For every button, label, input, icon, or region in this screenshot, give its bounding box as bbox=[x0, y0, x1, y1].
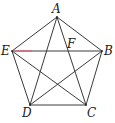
diagonal-ad bbox=[30, 17, 57, 105]
side-bc bbox=[86, 51, 102, 105]
pentagon-diagram: A B C D E F bbox=[0, 0, 115, 123]
vertex-b-dot bbox=[101, 50, 103, 52]
side-de bbox=[12, 51, 30, 105]
label-c: C bbox=[87, 106, 96, 120]
side-ea bbox=[12, 17, 57, 51]
label-d: D bbox=[21, 106, 32, 120]
label-e: E bbox=[0, 44, 10, 58]
label-b: B bbox=[103, 44, 113, 58]
side-ab bbox=[57, 17, 102, 51]
diagonal-ce bbox=[12, 51, 86, 105]
vertex-a-dot bbox=[56, 16, 58, 18]
diagonal-bd bbox=[30, 51, 102, 105]
label-f: F bbox=[66, 37, 76, 51]
label-a: A bbox=[51, 2, 61, 16]
vertex-e-dot bbox=[11, 50, 13, 52]
diagonal-ac bbox=[57, 17, 86, 105]
